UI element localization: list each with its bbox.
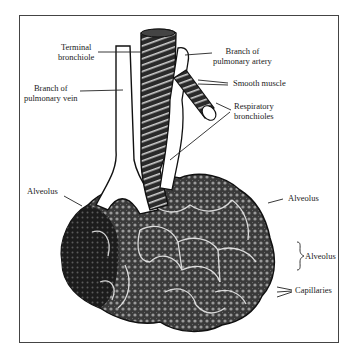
alveoli-cluster — [61, 174, 274, 331]
label-line: bronchioles — [234, 112, 274, 122]
label-capillaries: Capillaries — [295, 286, 332, 296]
label-line: pulmonary vein — [24, 94, 78, 104]
label-terminal-bronchiole: Terminal bronchiole — [58, 43, 94, 62]
label-line: pulmonary artery — [213, 57, 272, 67]
lung-lobule-illustration — [0, 0, 355, 360]
label-smooth-muscle: Smooth muscle — [233, 79, 286, 89]
label-alveolus-bracket: Alveolus — [305, 252, 336, 262]
label-branch-pulmonary-artery: Branch of pulmonary artery — [213, 47, 272, 66]
label-alveolus-right: Alveolus — [288, 194, 319, 204]
label-branch-pulmonary-vein: Branch of pulmonary vein — [24, 84, 78, 103]
label-respiratory-bronchioles: Respiratory bronchioles — [234, 102, 274, 121]
label-line: bronchiole — [58, 53, 94, 63]
label-alveolus-left: Alveolus — [27, 187, 58, 197]
